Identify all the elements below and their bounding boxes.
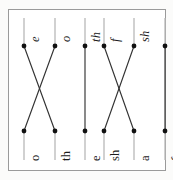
bottom-node-label: a bbox=[139, 155, 152, 161]
node-dot[interactable] bbox=[22, 44, 27, 49]
worksheet-page: eothothefshashaf bbox=[0, 0, 173, 180]
bottom-node-label: f bbox=[170, 157, 173, 161]
node-dot[interactable] bbox=[83, 129, 88, 134]
node-dot[interactable] bbox=[53, 129, 58, 134]
node-dot[interactable] bbox=[132, 129, 137, 134]
matching-diagram bbox=[0, 0, 173, 180]
node-dot[interactable] bbox=[83, 44, 88, 49]
top-node-label: f bbox=[109, 38, 122, 42]
node-dots-group bbox=[22, 44, 168, 134]
bottom-node-label: o bbox=[29, 155, 42, 161]
top-node-label: sh bbox=[139, 30, 152, 42]
node-dot[interactable] bbox=[163, 129, 168, 134]
bottom-node-label: th bbox=[60, 151, 73, 161]
top-node-label: o bbox=[60, 36, 73, 42]
node-dot[interactable] bbox=[102, 44, 107, 49]
node-dot[interactable] bbox=[132, 44, 137, 49]
bottom-node-label: sh bbox=[109, 149, 122, 161]
node-dot[interactable] bbox=[22, 129, 27, 134]
connection-lines-group bbox=[24, 46, 165, 131]
node-dot[interactable] bbox=[163, 44, 168, 49]
node-dot[interactable] bbox=[53, 44, 58, 49]
top-node-label: a bbox=[170, 36, 173, 42]
node-dot[interactable] bbox=[102, 129, 107, 134]
bottom-node-label: e bbox=[90, 155, 103, 161]
top-node-label: th bbox=[90, 32, 103, 42]
top-node-label: e bbox=[29, 36, 42, 42]
